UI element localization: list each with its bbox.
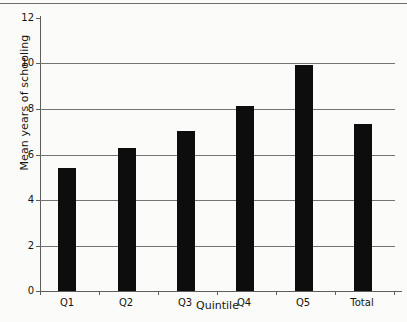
y-tick-mark-6 <box>36 155 40 156</box>
x-tick-mark-q3 <box>158 291 159 295</box>
y-tick-mark-2 <box>36 246 40 247</box>
y-tick-mark-10 <box>36 63 40 64</box>
bar-total[interactable] <box>354 124 372 291</box>
y-tick-label-10: 10 <box>10 58 34 68</box>
y-tick-mark-4 <box>36 200 40 201</box>
y-tick-label-2: 2 <box>10 241 34 251</box>
gridline-2 <box>40 246 395 247</box>
plot-area: 12 10 8 6 4 2 0 Q1 Q2 Q3 Q4 Q5 Total <box>40 18 395 291</box>
x-tick-mark-end <box>394 291 395 295</box>
bar-q3[interactable] <box>177 131 195 291</box>
gridline-6 <box>40 155 395 156</box>
gridline-8 <box>40 109 395 110</box>
x-tick-mark-q1 <box>40 291 41 295</box>
bar-q2[interactable] <box>118 148 136 291</box>
y-tick-label-12: 12 <box>10 13 34 23</box>
bar-q1[interactable] <box>58 168 76 291</box>
y-tick-label-8: 8 <box>10 104 34 114</box>
y-tick-label-0: 0 <box>10 286 34 296</box>
gridline-10 <box>40 63 395 64</box>
x-tick-mark-q2 <box>99 291 100 295</box>
y-tick-mark-8 <box>36 109 40 110</box>
bar-q4[interactable] <box>236 106 254 291</box>
x-axis-line <box>40 291 402 292</box>
bar-chart-figure: Mean years of schooling 12 10 8 6 4 2 0 <box>0 0 407 322</box>
bar-q5[interactable] <box>295 65 313 291</box>
y-tick-mark-12 <box>36 18 40 19</box>
y-tick-label-4: 4 <box>10 195 34 205</box>
gridline-4 <box>40 200 395 201</box>
y-tick-label-6: 6 <box>10 150 34 160</box>
x-axis-title: Quintile <box>40 299 395 312</box>
x-tick-mark-q4 <box>217 291 218 295</box>
x-tick-mark-q5 <box>276 291 277 295</box>
x-tick-mark-total <box>335 291 336 295</box>
